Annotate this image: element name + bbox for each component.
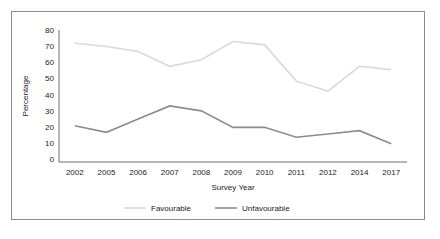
chart-legend: Favourable Unfavourable [124, 204, 290, 213]
x-tick-label: 2017 [382, 168, 400, 177]
line-chart: 80 70 60 50 40 30 20 10 0 Percentage 200… [12, 12, 424, 219]
x-tick-label: 2006 [129, 168, 147, 177]
chart-frame: 80 70 60 50 40 30 20 10 0 Percentage 200… [11, 11, 425, 220]
x-tick-label: 2012 [319, 168, 337, 177]
y-tick-label: 70 [45, 42, 54, 51]
x-axis-title: Survey Year [211, 183, 254, 192]
legend-label-favourable: Favourable [151, 204, 192, 213]
y-tick-label: 40 [45, 91, 54, 100]
x-tick-label: 2014 [351, 168, 369, 177]
x-tick-label: 2005 [98, 168, 116, 177]
series-line-unfavourable [75, 106, 391, 144]
y-axis-title: Percentage [21, 75, 30, 116]
x-tick-label: 2009 [224, 168, 242, 177]
x-tick-label: 2002 [66, 168, 84, 177]
y-tick-labels: 80 70 60 50 40 30 20 10 0 [45, 26, 54, 164]
y-tick-label: 80 [45, 26, 54, 35]
x-tick-label: 2008 [192, 168, 210, 177]
y-tick-label: 60 [45, 58, 54, 67]
x-tick-label: 2010 [256, 168, 274, 177]
y-tick-label: 30 [45, 107, 54, 116]
x-tick-label: 2011 [288, 168, 306, 177]
legend-label-unfavourable: Unfavourable [242, 204, 290, 213]
y-tick-label: 0 [50, 155, 55, 164]
series-line-favourable [75, 42, 391, 92]
x-tick-labels: 2002200520062007200820092010201120122014… [66, 168, 401, 177]
y-tick-label: 20 [45, 123, 54, 132]
y-tick-label: 50 [45, 74, 54, 83]
y-tick-label: 10 [45, 139, 54, 148]
x-tick-label: 2007 [161, 168, 179, 177]
